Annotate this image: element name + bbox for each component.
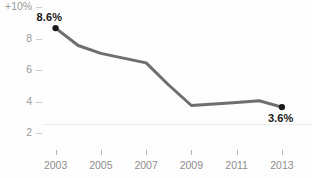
x-tick-label-2005: 2005 bbox=[81, 160, 121, 171]
x-tick-mark-2013 bbox=[282, 150, 283, 155]
x-tick-mark-2007 bbox=[146, 150, 147, 155]
x-tick-label-2011: 2011 bbox=[217, 160, 257, 171]
x-tick-label-2003: 2003 bbox=[36, 160, 76, 171]
chart-container: +10%– 8– 6– 4– 2– 8.6% 3.6% 2003 2005 20… bbox=[0, 0, 312, 178]
x-axis: 2003 2005 2007 2009 2011 2013 bbox=[0, 0, 312, 178]
x-tick-mark-2003 bbox=[56, 150, 57, 155]
x-tick-label-2013: 2013 bbox=[262, 160, 302, 171]
x-tick-label-2009: 2009 bbox=[171, 160, 211, 171]
x-tick-label-2007: 2007 bbox=[126, 160, 166, 171]
x-tick-mark-2011 bbox=[237, 150, 238, 155]
x-tick-mark-2005 bbox=[101, 150, 102, 155]
x-tick-mark-2009 bbox=[191, 150, 192, 155]
